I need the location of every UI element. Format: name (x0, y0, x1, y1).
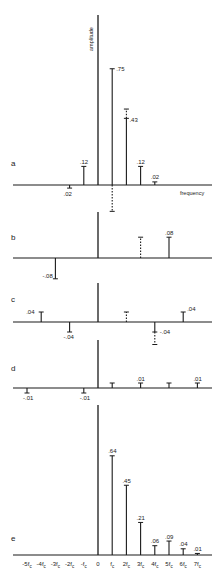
stem-value-label: -.08 (42, 273, 53, 279)
stem-value-label: .43 (129, 117, 138, 123)
frequency-tick-label: 2fc (123, 561, 131, 569)
frequency-tick-label: 3fc (137, 561, 145, 569)
stem-value-label: .09 (165, 534, 174, 540)
panel-letter: b (11, 233, 16, 242)
frequency-tick-label: 6fc (180, 561, 188, 569)
panel-letter: d (11, 364, 15, 373)
stem-value-label: .12 (80, 159, 89, 165)
panel-letter: c (11, 295, 15, 304)
stem-value-label: .01 (193, 546, 202, 552)
stem-value-label: .06 (151, 538, 160, 544)
stem-value-label: .02 (151, 174, 160, 180)
stem-value-label: .04 (187, 306, 196, 312)
frequency-tick-label: -3fc (51, 561, 61, 569)
stem-value-label: .01 (137, 376, 146, 382)
panel-d: d-.01-.01.01.01 (11, 340, 212, 401)
amplitude-label: amplitude (88, 27, 94, 51)
panel-b: b-.08.08 (11, 212, 212, 279)
harmonic-spectra-figure: amplitude frequency a.02.12.75.43.12.02b… (0, 0, 224, 580)
panel-letter: e (11, 534, 16, 543)
panel-c: c.04-.04-.04.04 (11, 283, 212, 345)
frequency-tick-label: -5fc (22, 561, 32, 569)
stem-value-label: .75 (116, 66, 125, 72)
stem-value-label: .12 (137, 159, 146, 165)
frequency-tick-label: -4fc (37, 561, 47, 569)
stem-value-label: -.04 (160, 329, 171, 335)
stem-value-label: .01 (193, 376, 202, 382)
frequency-tick-label: -2fc (65, 561, 75, 569)
stem-value-label: .02 (64, 191, 73, 197)
stem-value-label: .04 (26, 309, 35, 315)
stem-value-label: .21 (137, 515, 146, 521)
stem-plots: a.02.12.75.43.12.02b-.08.08c.04-.04-.04.… (0, 0, 224, 580)
panel-a: a.02.12.75.43.12.02 (11, 15, 212, 211)
panel-e: e.64.45.21.06.09.04.01 (11, 405, 212, 555)
frequency-tick-label: fc (110, 561, 115, 569)
stem-value-label: -.04 (64, 334, 75, 340)
frequency-label: frequency (180, 190, 204, 196)
stem-value-label: -.01 (80, 395, 91, 401)
frequency-tick-label: -fc (81, 561, 88, 569)
frequency-tick-label: 4fc (151, 561, 159, 569)
panel-letter: a (11, 159, 16, 168)
frequency-tick-label: 5fc (165, 561, 173, 569)
stem-value-label: .45 (122, 478, 131, 484)
stem-value-label: -.01 (23, 395, 34, 401)
stem-value-label: .04 (179, 541, 188, 547)
stem-value-label: .08 (165, 230, 174, 236)
stem-value-label: .64 (108, 448, 117, 454)
frequency-tick-label: 7fc (194, 561, 202, 569)
frequency-tick-label: 0 (96, 561, 100, 567)
